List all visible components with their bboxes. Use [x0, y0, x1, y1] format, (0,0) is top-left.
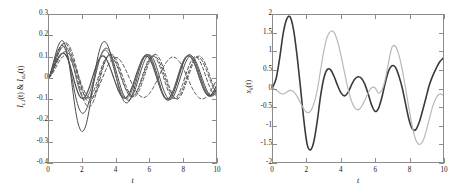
x-tick-mark — [375, 158, 376, 163]
panel-left: 0.30.20.10-0.1-0.2-0.3-0.4 0246810 t Ic,… — [0, 0, 232, 196]
y-tick-mark — [48, 163, 53, 164]
plot-curves-right — [273, 15, 443, 162]
y-tick-mark — [272, 51, 277, 52]
y-tick-label: 0.2 — [39, 32, 48, 39]
y-tick-mark — [48, 78, 53, 79]
x-tick-mark — [116, 14, 117, 19]
x-tick-mark — [82, 14, 83, 19]
x-tick-label: 4 — [114, 167, 118, 174]
y-tick-mark — [272, 126, 277, 127]
y-tick-label: -0.1 — [37, 96, 48, 103]
y-tick-mark — [212, 142, 217, 143]
y-tick-mark — [439, 126, 444, 127]
y-tick-label: -0.5 — [261, 104, 272, 111]
y-tick-mark — [439, 51, 444, 52]
x-tick-mark — [306, 158, 307, 163]
x-tick-mark — [272, 158, 273, 163]
y-label-subscript-c: c,i — [20, 100, 26, 106]
y-tick-label: 1.5 — [263, 29, 272, 36]
x-tick-mark — [444, 14, 445, 19]
y-tick-mark — [439, 163, 444, 164]
x-tick-mark — [82, 158, 83, 163]
y-tick-mark — [212, 163, 217, 164]
x-tick-label: 6 — [148, 167, 152, 174]
x-tick-label: 2 — [305, 167, 309, 174]
y-tick-mark — [212, 57, 217, 58]
x-tick-mark — [183, 158, 184, 163]
y-tick-mark — [439, 144, 444, 145]
y-tick-mark — [439, 33, 444, 34]
y-tick-label: 0.3 — [39, 10, 48, 17]
y-tick-label: -0.3 — [37, 138, 48, 145]
x-tick-mark — [183, 14, 184, 19]
x-tick-mark — [149, 158, 150, 163]
x-tick-mark — [410, 14, 411, 19]
x-tick-mark — [444, 158, 445, 163]
y-label-subscript-k: k — [248, 87, 254, 90]
x-tick-label: 4 — [339, 167, 343, 174]
x-tick-mark — [48, 158, 49, 163]
x-tick-mark — [306, 14, 307, 19]
y-axis-label-right: xk(t) — [244, 47, 253, 127]
plot-area-right — [272, 14, 444, 163]
x-tick-label: 0 — [270, 167, 274, 174]
curve-x_1 — [273, 16, 443, 150]
x-tick-label: 8 — [181, 167, 185, 174]
y-tick-mark — [48, 57, 53, 58]
y-tick-mark — [272, 33, 277, 34]
y-tick-label: 0.5 — [263, 66, 272, 73]
x-tick-mark — [217, 14, 218, 19]
y-label-subscript-a: a,i — [20, 73, 26, 79]
y-tick-mark — [48, 142, 53, 143]
x-tick-label: 6 — [373, 167, 377, 174]
x-axis-label-left: t — [48, 176, 217, 185]
y-axis-label-left: Ic,i(t) & Ia,i(t) — [16, 27, 25, 147]
y-tick-mark — [212, 78, 217, 79]
x-tick-mark — [375, 14, 376, 19]
y-tick-mark — [212, 35, 217, 36]
x-tick-label: 0 — [46, 167, 50, 174]
y-tick-mark — [212, 120, 217, 121]
y-tick-mark — [272, 163, 277, 164]
x-tick-mark — [272, 14, 273, 19]
x-tick-mark — [217, 158, 218, 163]
x-tick-label: 10 — [213, 167, 220, 174]
x-tick-mark — [410, 158, 411, 163]
x-tick-label: 8 — [408, 167, 412, 174]
y-tick-mark — [439, 107, 444, 108]
x-tick-mark — [341, 14, 342, 19]
x-tick-mark — [48, 14, 49, 19]
x-tick-mark — [149, 14, 150, 19]
panel-right: 21.510.50-0.5-1-1.5-2 0246810 t xk(t) — [231, 0, 463, 196]
x-tick-label: 2 — [80, 167, 84, 174]
x-tick-mark — [116, 158, 117, 163]
figure-two-panel-plot: 0.30.20.10-0.1-0.2-0.3-0.4 0246810 t Ic,… — [0, 0, 463, 196]
x-tick-label: 10 — [440, 167, 447, 174]
y-tick-mark — [48, 120, 53, 121]
y-tick-mark — [48, 35, 53, 36]
y-tick-mark — [48, 99, 53, 100]
y-tick-mark — [272, 107, 277, 108]
y-tick-mark — [272, 70, 277, 71]
curve-I_c,4 — [49, 46, 216, 100]
y-tick-label: -0.2 — [37, 117, 48, 124]
y-tick-mark — [439, 70, 444, 71]
y-tick-label: -1.5 — [261, 141, 272, 148]
x-axis-label-right: t — [272, 176, 444, 185]
plot-area-left — [48, 14, 217, 163]
y-tick-mark — [212, 99, 217, 100]
y-tick-label: 0.1 — [39, 53, 48, 60]
y-tick-mark — [272, 89, 277, 90]
y-tick-mark — [439, 89, 444, 90]
x-tick-mark — [341, 158, 342, 163]
plot-curves-left — [49, 15, 216, 162]
y-tick-mark — [272, 144, 277, 145]
